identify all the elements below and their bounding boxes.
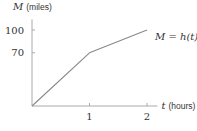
chart: 1270100M = h(t)M(miles)t(hours) — [0, 0, 197, 131]
x-axis-title: t(hours) — [162, 100, 196, 111]
y-tick-label: 100 — [5, 25, 24, 36]
curve-label: M = h(t) — [154, 31, 197, 42]
y-axis-var: M — [12, 1, 24, 12]
series-line — [32, 30, 147, 106]
x-tick-label: 1 — [86, 111, 92, 122]
x-axis-var: t — [162, 100, 167, 111]
y-tick-label: 70 — [11, 47, 24, 58]
y-axis-unit: (miles) — [26, 2, 52, 12]
x-axis-unit: (hours) — [169, 101, 196, 111]
y-axis-title: M(miles) — [12, 1, 52, 12]
x-tick-label: 2 — [144, 111, 150, 122]
